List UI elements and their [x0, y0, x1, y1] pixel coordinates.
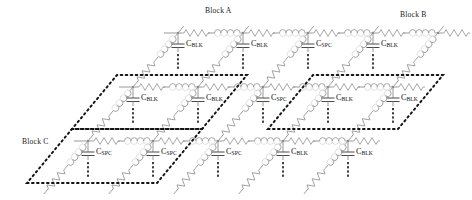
- capacitor-label: CBLK: [381, 39, 398, 48]
- block-outlines: [27, 75, 443, 183]
- capacitor-subscript: BLK: [146, 96, 158, 102]
- capacitor-subscript: BLK: [406, 96, 418, 102]
- capacitor-label: CBLK: [141, 93, 158, 102]
- capacitor-label: CBLK: [206, 93, 223, 102]
- capacitor-subscript: SPC: [276, 96, 286, 102]
- capacitor-label: CSPC: [316, 39, 332, 48]
- capacitor-subscript: BLK: [256, 42, 268, 48]
- capacitor-label: CBLK: [336, 93, 353, 102]
- capacitor-label: CBLK: [291, 147, 308, 156]
- capacitor-label: CSPC: [161, 147, 177, 156]
- circuit-figure: Block A Block B Block C CBLKCBLKCSPCCBLK…: [0, 0, 472, 200]
- lattice-wires: [44, 26, 470, 194]
- capacitor-label: CBLK: [356, 147, 373, 156]
- block-label-c: Block C: [22, 137, 49, 146]
- capacitor-label: CSPC: [96, 147, 112, 156]
- capacitor-subscript: SPC: [231, 150, 241, 156]
- capacitor-subscript: SPC: [101, 150, 111, 156]
- capacitor-subscript: BLK: [296, 150, 308, 156]
- capacitor-subscript: SPC: [166, 150, 176, 156]
- capacitor-label: CSPC: [226, 147, 242, 156]
- capacitor-subscript: SPC: [321, 42, 331, 48]
- capacitor-subscript: BLK: [361, 150, 373, 156]
- capacitor-label: CBLK: [251, 39, 268, 48]
- capacitor-subscript: BLK: [386, 42, 398, 48]
- capacitor-label: CBLK: [401, 93, 418, 102]
- capacitor-label: CBLK: [186, 39, 203, 48]
- capacitor-label: CSPC: [271, 93, 287, 102]
- capacitor-subscript: BLK: [191, 42, 203, 48]
- block-label-b: Block B: [400, 10, 427, 19]
- capacitor-subscript: BLK: [211, 96, 223, 102]
- block-label-a: Block A: [205, 6, 232, 15]
- capacitor-subscript: BLK: [341, 96, 353, 102]
